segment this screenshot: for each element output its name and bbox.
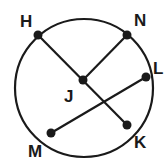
point-J	[79, 76, 88, 85]
point-L	[142, 73, 151, 82]
circle	[15, 19, 153, 157]
label-N: N	[134, 11, 146, 30]
point-K	[123, 121, 132, 130]
circle-diagram: H N L J K M	[0, 0, 167, 162]
label-M: M	[28, 142, 42, 161]
label-H: H	[20, 12, 32, 31]
point-H	[34, 31, 43, 40]
label-J: J	[64, 87, 73, 106]
label-K: K	[134, 133, 147, 152]
segment-NJ	[83, 35, 127, 80]
point-N	[123, 31, 132, 40]
label-L: L	[153, 59, 163, 78]
point-M	[47, 129, 56, 138]
